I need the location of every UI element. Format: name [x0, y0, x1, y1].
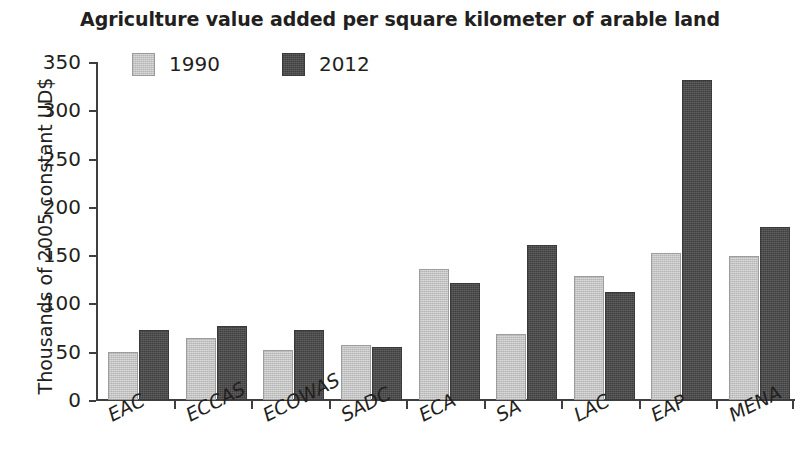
- x-tick: [639, 400, 641, 409]
- bar-eac-2012: [139, 330, 169, 400]
- y-tick-label: 0: [21, 388, 81, 412]
- y-tick: [89, 62, 96, 64]
- bar-mena-2012: [760, 227, 790, 400]
- y-tick: [89, 352, 96, 354]
- chart-container: Agriculture value added per square kilom…: [0, 0, 800, 461]
- x-tick: [484, 400, 486, 409]
- x-tick: [251, 400, 253, 409]
- bar-lac-2012: [605, 292, 635, 400]
- y-tick: [89, 110, 96, 112]
- y-tick: [89, 159, 96, 161]
- x-tick: [716, 400, 718, 409]
- y-axis-line: [96, 62, 98, 401]
- bar-eap-2012: [682, 80, 712, 400]
- x-tick: [561, 400, 563, 409]
- bar-eca-2012: [450, 283, 480, 400]
- y-tick-label: 150: [21, 243, 81, 267]
- y-tick-label: 50: [21, 340, 81, 364]
- chart-title: Agriculture value added per square kilom…: [0, 8, 800, 30]
- y-tick-label: 350: [21, 50, 81, 74]
- y-tick: [89, 400, 96, 402]
- x-tick: [406, 400, 408, 409]
- bar-eap-1990: [651, 253, 681, 400]
- y-tick-label: 300: [21, 98, 81, 122]
- bar-sa-2012: [527, 245, 557, 400]
- bar-mena-1990: [729, 256, 759, 400]
- y-tick: [89, 255, 96, 257]
- y-tick-label: 250: [21, 147, 81, 171]
- bar-lac-1990: [574, 276, 604, 400]
- bar-sa-1990: [496, 334, 526, 400]
- x-tick: [329, 400, 331, 409]
- x-tick: [792, 400, 794, 409]
- bar-eca-1990: [419, 269, 449, 400]
- x-tick: [174, 400, 176, 409]
- y-tick: [89, 303, 96, 305]
- y-tick-label: 100: [21, 291, 81, 315]
- y-tick: [89, 207, 96, 209]
- y-tick-label: 200: [21, 195, 81, 219]
- plot-area: 050100150200250300350: [96, 62, 794, 400]
